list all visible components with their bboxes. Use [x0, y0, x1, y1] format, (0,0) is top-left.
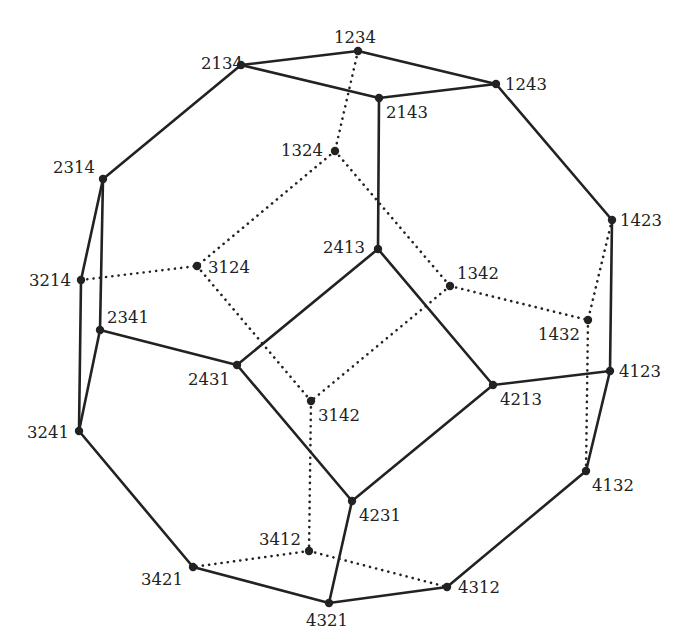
edge-2134-1234 — [241, 51, 358, 65]
vertex-2143 — [375, 94, 383, 102]
vertex-label-2431: 2431 — [188, 370, 230, 389]
hidden-edge-3412-4312 — [309, 551, 447, 587]
vertex-2314 — [99, 175, 107, 183]
vertex-label-3214: 3214 — [29, 271, 71, 290]
vertex-label-3124: 3124 — [208, 258, 250, 277]
hidden-edge-1234-1324 — [335, 51, 358, 151]
hidden-edge-1432-4132 — [586, 320, 588, 471]
edge-4321-4312 — [329, 587, 447, 603]
edge-4231-4321 — [329, 501, 352, 603]
vertex-4231 — [348, 497, 356, 505]
edge-1243-1423 — [496, 84, 612, 220]
vertex-1324 — [331, 147, 339, 155]
vertex-label-1342: 1342 — [457, 264, 499, 283]
vertex-label-4231: 4231 — [359, 506, 401, 525]
vertex-label-1423: 1423 — [620, 211, 662, 230]
edge-4213-4123 — [493, 371, 610, 385]
edge-3214-3241 — [79, 280, 81, 431]
vertex-label-2134: 2134 — [201, 54, 243, 73]
vertex-1234 — [354, 47, 362, 55]
edge-2341-3241 — [79, 330, 100, 431]
edge-3241-3421 — [79, 431, 193, 567]
vertex-3241 — [75, 427, 83, 435]
hidden-edge-1423-1432 — [588, 220, 612, 320]
vertex-label-2413: 2413 — [323, 238, 365, 257]
vertex-3142 — [307, 397, 315, 405]
edge-4123-4132 — [586, 371, 610, 471]
vertex-4132 — [582, 467, 590, 475]
diagram-svg: 1234213421431243132423141423241331243214… — [0, 0, 690, 644]
edge-2314-3214 — [81, 179, 103, 280]
edge-4213-4231 — [352, 385, 493, 501]
visible-edges — [79, 51, 612, 603]
edge-2143-1243 — [379, 84, 496, 98]
vertex-label-4321: 4321 — [306, 611, 348, 630]
vertex-label-4213: 4213 — [500, 390, 542, 409]
vertex-1243 — [492, 80, 500, 88]
hidden-edge-1342-3142 — [311, 286, 450, 401]
edge-4312-4132 — [447, 471, 586, 587]
vertex-3214 — [77, 276, 85, 284]
edge-3421-4321 — [193, 567, 329, 603]
vertex-label-3241: 3241 — [27, 423, 69, 442]
vertex-label-4123: 4123 — [619, 362, 661, 381]
edge-2143-2413 — [378, 98, 379, 249]
vertex-3421 — [189, 563, 197, 571]
vertex-1342 — [446, 282, 454, 290]
vertex-label-3412: 3412 — [259, 530, 301, 549]
vertex-label-1234: 1234 — [334, 28, 376, 47]
permutohedron-diagram: 1234213421431243132423141423241331243214… — [0, 0, 690, 644]
vertex-2431 — [233, 361, 241, 369]
edge-2341-2431 — [100, 330, 237, 365]
vertex-label-1243: 1243 — [505, 75, 547, 94]
vertex-3412 — [305, 547, 313, 555]
vertex-label-4132: 4132 — [592, 476, 634, 495]
edge-2431-4231 — [237, 365, 352, 501]
vertex-label-1324: 1324 — [281, 141, 323, 160]
edge-2134-2143 — [241, 65, 379, 98]
vertex-4321 — [325, 599, 333, 607]
edge-2134-2314 — [103, 65, 241, 179]
vertex-1423 — [608, 216, 616, 224]
hidden-edge-3214-3124 — [81, 266, 197, 280]
edge-1234-1243 — [358, 51, 496, 84]
vertex-label-3142: 3142 — [318, 406, 360, 425]
edge-2431-2413 — [237, 249, 378, 365]
vertex-label-4312: 4312 — [458, 578, 500, 597]
vertex-label-3421: 3421 — [141, 570, 183, 589]
vertex-4213 — [489, 381, 497, 389]
vertex-label-2341: 2341 — [107, 308, 149, 327]
vertex-4312 — [443, 583, 451, 591]
vertex-2413 — [374, 245, 382, 253]
hidden-edge-3142-3412 — [309, 401, 311, 551]
hidden-edge-1324-3124 — [197, 151, 335, 266]
vertex-1432 — [584, 316, 592, 324]
edge-1423-4123 — [610, 220, 612, 371]
hidden-edge-1342-1432 — [450, 286, 588, 320]
hidden-edge-3412-3421 — [193, 551, 309, 567]
vertex-4123 — [606, 367, 614, 375]
vertex-3124 — [193, 262, 201, 270]
vertex-label-1432: 1432 — [538, 325, 580, 344]
vertex-label-2314: 2314 — [53, 158, 95, 177]
edge-2314-2341 — [100, 179, 103, 330]
vertex-label-2143: 2143 — [386, 103, 428, 122]
vertex-2341 — [96, 326, 104, 334]
